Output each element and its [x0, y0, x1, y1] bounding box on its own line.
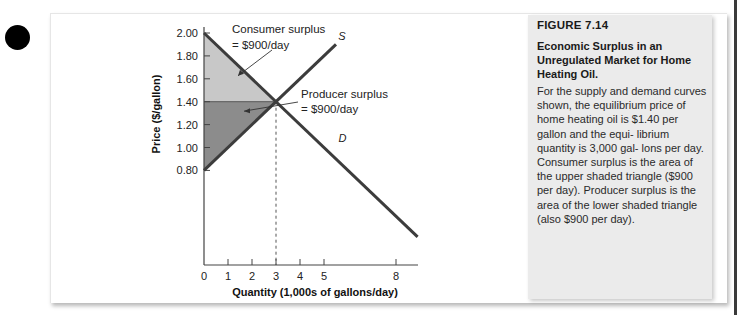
y-axis-title: Price ($/gallon) — [150, 74, 162, 153]
consumer-surplus-label-line1: Consumer surplus — [232, 23, 326, 35]
x-tick-label: 2 — [249, 270, 255, 282]
y-tick-label: 1.60 — [177, 73, 198, 85]
figure-description: For the supply and demand curves shown, … — [537, 84, 709, 226]
x-tick-label: 0 — [201, 270, 207, 282]
figure-number: FIGURE 7.14 — [537, 19, 608, 31]
x-tick-label: 8 — [393, 270, 399, 282]
supply-curve-label: S — [338, 30, 346, 42]
y-tick-label: 1.40 — [177, 96, 198, 108]
y-tick-label: 1.20 — [177, 119, 198, 131]
producer-surplus-label-line1: Producer surplus — [301, 88, 388, 100]
demand-curve-label: D — [338, 132, 346, 144]
figure-caption-panel: FIGURE 7.14 Economic Surplus in an Unreg… — [528, 15, 712, 299]
x-tick-label: 1 — [225, 270, 231, 282]
y-tick-label: 2.00 — [177, 27, 198, 39]
consumer-surplus-arrow-line — [238, 50, 272, 76]
y-tick-label: 1.00 — [177, 142, 198, 154]
x-tick-label: 3 — [273, 270, 279, 282]
x-axis-title: Quantity (1,000s of gallons/day) — [232, 286, 398, 298]
y-tick-label: 1.80 — [177, 50, 198, 62]
consumer-surplus-label-line2: = $900/day — [232, 39, 289, 51]
x-tick-label: 4 — [297, 270, 303, 282]
x-tick-label: 5 — [321, 270, 327, 282]
figure-title: Economic Surplus in an Unregulated Marke… — [537, 39, 709, 81]
producer-surplus-label-line2: = $900/day — [301, 103, 358, 115]
y-tick-label: 0.80 — [177, 164, 198, 176]
